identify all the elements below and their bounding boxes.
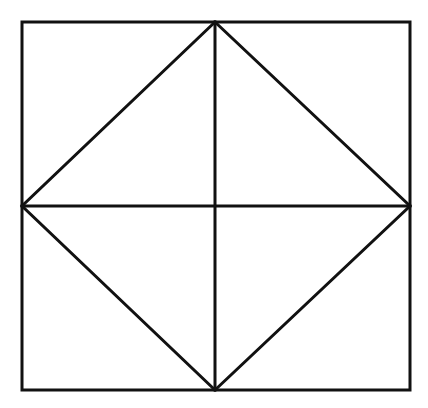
geometric-figure-canvas [0, 0, 428, 408]
